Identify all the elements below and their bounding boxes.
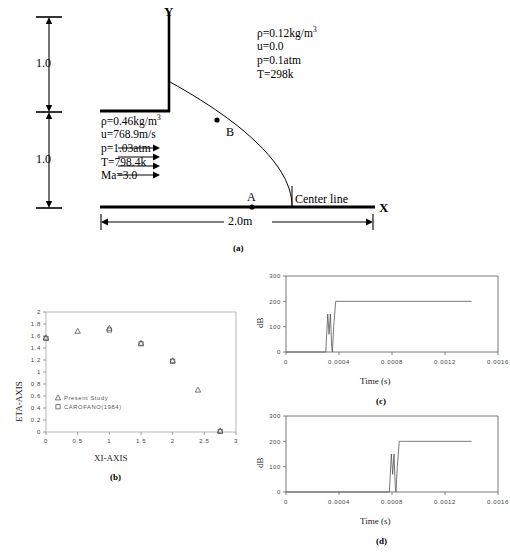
chart-c-data-line <box>286 301 472 352</box>
panel-caption-a: (a) <box>233 243 244 253</box>
ambient-state-line-3: T=298k <box>257 68 317 82</box>
chart-b-xtick-label: 1.5 <box>136 438 146 444</box>
chart-b-xtick-label: 0.5 <box>73 438 83 444</box>
ambient-state-line-1: u=0.0 <box>257 40 317 54</box>
ambient-state-line-0: ρ=0.12kg/m3 <box>257 26 317 40</box>
chart-b-xaxis-title: XI-AXIS <box>94 453 128 463</box>
inlet-state-line-2: p=1.03atm <box>101 142 161 156</box>
chart-b-plot-frame <box>46 312 236 432</box>
probe-label-b: B <box>226 125 234 139</box>
ambient-t-symbol: T <box>257 68 264 80</box>
chart-c-ytick-label: 200 <box>269 299 281 305</box>
chart-b-ytick-label: 0.8 <box>31 381 41 387</box>
ambient-state-block: ρ=0.12kg/m3 u=0.0 p=0.1atm T=298k <box>257 26 317 81</box>
ambient-rho-value: =0.12kg/m <box>263 27 313 39</box>
chart-b-xtick-label: 0 <box>44 438 48 444</box>
inlet-rho-exponent: 3 <box>157 113 161 122</box>
chart-b-xtick-label: 3 <box>234 438 238 444</box>
inlet-state-line-4: Ma=3.0 <box>101 169 161 183</box>
chart-c-yaxis-title: dB <box>255 317 265 328</box>
chart-b-yaxis-title: ETA-AXIS <box>14 381 24 422</box>
chart-b-ytick-label: 1.8 <box>31 321 41 327</box>
inlet-u-value: =768.9m/s <box>107 128 156 140</box>
chart-b-datapoint <box>195 387 200 392</box>
center-line-label: Center line <box>295 192 348 206</box>
panel-a-schematic: 1.0 1.0 2.0m Y X B A Center line ρ=0.12k… <box>0 0 510 258</box>
chart-b-ytick-label: 0 <box>37 429 41 435</box>
inlet-state-block: ρ=0.46kg/m3 u=768.9m/s p=1.03atm T=798.4… <box>101 114 161 183</box>
panel-caption-d: (d) <box>376 536 387 546</box>
chart-b-ytick-label: 1.6 <box>31 333 41 339</box>
dim-arrowhead-length-right <box>366 219 373 226</box>
chart-d-xtick-label: 0.0008 <box>381 499 403 505</box>
dim-arrowhead-lower-top <box>46 112 52 119</box>
chart-b-ytick-label: 1 <box>37 369 41 375</box>
chart-b-xtick-label: 2.5 <box>199 438 209 444</box>
chart-b-xtick-label: 2 <box>171 438 175 444</box>
ambient-u-value: =0.0 <box>263 40 284 52</box>
dim-arrowhead-upper-top <box>46 17 52 24</box>
chart-c-xtick-label: 0.0012 <box>434 359 456 365</box>
inlet-state-line-3: T=798.4k <box>101 156 161 170</box>
panel-b-scatter-chart: 00.511.522.5300.20.40.60.811.21.41.61.82… <box>0 300 250 490</box>
chart-c-xtick-label: 0.0016 <box>487 359 509 365</box>
panel-caption-c: (c) <box>376 396 386 406</box>
ambient-state-line-2: p=0.1atm <box>257 54 317 68</box>
inlet-state-line-1: u=768.9m/s <box>101 128 161 142</box>
dim-arrowhead-length-left <box>101 219 108 226</box>
chart-b-ytick-label: 1.2 <box>31 357 41 363</box>
panel-caption-b: (b) <box>110 472 121 482</box>
ambient-p-value: =0.1atm <box>263 54 301 66</box>
chart-c-xtick-label: 0 <box>284 359 288 365</box>
chart-c-ytick-label: 300 <box>269 273 281 279</box>
inlet-ma-value: =3.0 <box>116 169 137 181</box>
chart-b-legend-marker-carofano <box>56 405 60 409</box>
chart-d-xtick-label: 0.0004 <box>328 499 350 505</box>
chart-d-xtick-label: 0.0012 <box>434 499 456 505</box>
chart-b-ytick-label: 1.4 <box>31 345 41 351</box>
inlet-state-line-0: ρ=0.46kg/m3 <box>101 114 161 128</box>
ambient-rho-exponent: 3 <box>313 25 317 34</box>
chart-d-data-line <box>286 441 472 492</box>
chart-b-ytick-label: 2 <box>37 309 41 315</box>
chart-d-ytick-label: 100 <box>269 464 281 470</box>
chart-d-xtick-label: 0.0016 <box>487 499 509 505</box>
inlet-rho-value: =0.46kg/m <box>107 115 157 127</box>
chart-b-ytick-label: 0.2 <box>31 417 41 423</box>
chart-b-datapoint <box>75 328 80 333</box>
dim-arrowhead-lower-bottom <box>46 201 52 208</box>
chart-c-axis-spine <box>286 276 498 352</box>
shock-boundary-curve <box>170 82 292 206</box>
chart-c-xtick-label: 0.0004 <box>328 359 350 365</box>
chart-d-ytick-label: 300 <box>269 413 281 419</box>
chart-c-xaxis-title: Time (s) <box>360 376 390 386</box>
chart-d-yaxis-title: dB <box>255 457 265 468</box>
chart-d-ytick-label: 0 <box>277 489 281 495</box>
dim-arrowhead-upper-bottom <box>46 105 52 112</box>
chart-d-xaxis-title: Time (s) <box>360 516 390 526</box>
chart-b-legend-label-carofano: CAROFANO(1984) <box>64 404 122 410</box>
chart-b-xtick-label: 1 <box>107 438 111 444</box>
schematic-geometry <box>0 0 510 258</box>
inlet-ma-symbol: Ma <box>101 169 116 181</box>
inlet-p-value: =1.03atm <box>107 142 151 154</box>
probe-point-a-marker <box>249 204 254 209</box>
ambient-t-value: =298k <box>264 68 294 80</box>
chart-c-ytick-label: 0 <box>277 349 281 355</box>
dimension-label-length: 2.0m <box>228 214 252 228</box>
chart-b-legend-label-present-study: Present Study <box>64 395 108 401</box>
chart-c-canvas: 010020030000.00040.00080.00120.0016 <box>252 268 510 378</box>
chart-b-legend-marker-present-study <box>55 395 60 400</box>
axis-label-y: Y <box>164 4 173 19</box>
panel-c-line-chart: 010020030000.00040.00080.00120.0016 Time… <box>252 268 510 408</box>
chart-d-xtick-label: 0 <box>284 499 288 505</box>
chart-d-canvas: 010020030000.00040.00080.00120.0016 <box>252 408 510 518</box>
chart-c-ytick-label: 100 <box>269 324 281 330</box>
chart-b-ytick-label: 0.6 <box>31 393 41 399</box>
panel-d-line-chart: 010020030000.00040.00080.00120.0016 Time… <box>252 408 510 553</box>
probe-label-a: A <box>247 190 256 204</box>
dimension-label-lower: 1.0 <box>36 152 51 166</box>
chart-d-ytick-label: 200 <box>269 439 281 445</box>
chart-b-canvas: 00.511.522.5300.20.40.60.811.21.41.61.82… <box>0 300 250 475</box>
chart-c-xtick-label: 0.0008 <box>381 359 403 365</box>
